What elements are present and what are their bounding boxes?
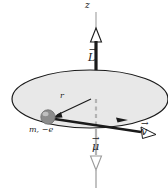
vector-arrow-v: → [141, 119, 149, 128]
particle-label: m, −e [29, 126, 53, 134]
sphere-highlight [43, 112, 49, 116]
vector-arrow-L: → [89, 45, 97, 54]
z-axis-label: z [85, 1, 90, 10]
magnetic-moment-label: → μ [92, 141, 99, 152]
velocity-label: → v [141, 126, 147, 137]
particle-sphere [41, 110, 55, 124]
radius-label: r [60, 92, 64, 100]
vector-arrow-mu: → [92, 134, 100, 143]
physics-diagram [0, 0, 168, 191]
angular-momentum-label: → L [88, 52, 95, 63]
